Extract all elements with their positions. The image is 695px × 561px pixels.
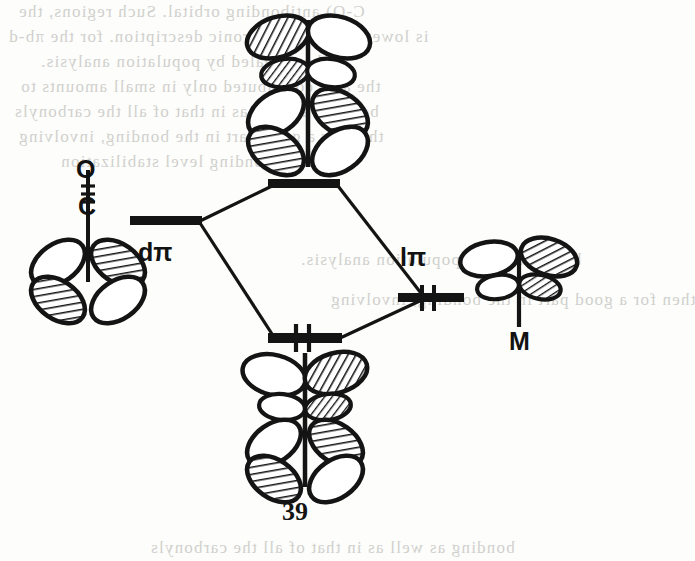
label-metal: M — [509, 327, 530, 356]
label-oxygen: O — [76, 155, 95, 184]
correlation-lines — [200, 186, 424, 339]
label-l-pi: lπ — [400, 243, 426, 272]
orbital-antibonding-combination — [239, 8, 377, 185]
orbital-bonding-combination — [238, 345, 372, 512]
label-carbon: C — [78, 192, 96, 221]
lobe-open — [302, 8, 375, 66]
correlation-line-dpi-to-bonding — [200, 223, 274, 337]
energy-level-dpi[interactable] — [130, 216, 202, 225]
energy-level-bonding[interactable] — [268, 324, 342, 352]
figure-number: 39 — [282, 497, 308, 527]
label-d-pi: dπ — [138, 238, 172, 267]
correlation-line-lpi-to-bonding — [338, 299, 424, 339]
lobe-shaded — [241, 8, 314, 66]
correlation-line-dpi-to-antibonding — [200, 186, 272, 221]
energy-level-antibonding[interactable] — [268, 179, 340, 188]
lobe-shaded-small — [259, 56, 310, 90]
correlation-line-lpi-to-antibonding — [338, 186, 424, 297]
lobe-open-small — [305, 56, 356, 90]
orbital-metal-fragment — [457, 231, 582, 327]
